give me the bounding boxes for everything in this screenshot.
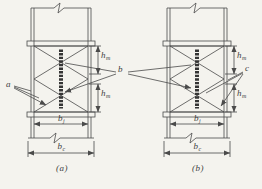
bj-label-a-sub: j xyxy=(63,118,65,124)
figure-b xyxy=(163,3,243,157)
hm-bottom-label-a-base: h xyxy=(101,88,106,98)
hm-bottom-label-a-sub: m xyxy=(106,93,110,99)
bc-label-b-base: b xyxy=(193,141,198,151)
break-symbol-top-b xyxy=(167,3,227,13)
callout-b-label: b xyxy=(118,65,123,74)
hm-bottom-label-b-sub: m xyxy=(242,93,246,99)
hm-top-label-a-base: h xyxy=(101,50,106,60)
hm-top-label-b-base: h xyxy=(237,50,242,60)
figure-canvas: a b c hm hm bj bc (a) hm hm bj bc (b) xyxy=(0,0,262,189)
bj-label-b-base: b xyxy=(194,113,199,123)
break-symbol-top-a xyxy=(31,3,91,13)
bc-label-a-base: b xyxy=(57,141,62,151)
hm-top-label-a-sub: m xyxy=(106,55,110,61)
hm-top-label-a: hm xyxy=(101,51,110,60)
bc-label-b-sub: c xyxy=(198,146,201,152)
diagram-linework xyxy=(0,0,262,189)
bj-label-a: bj xyxy=(58,114,64,123)
callout-b-leaders-right xyxy=(128,65,191,88)
bj-label-a-base: b xyxy=(58,113,63,123)
bc-label-a-sub: c xyxy=(62,146,65,152)
bc-label-a: bc xyxy=(57,142,64,151)
caption-b: (b) xyxy=(192,164,204,173)
caption-a: (a) xyxy=(56,164,68,173)
figure-a xyxy=(14,3,101,157)
bj-label-b-sub: j xyxy=(199,118,201,124)
bj-label-b: bj xyxy=(194,114,200,123)
hm-bottom-label-b: hm xyxy=(237,89,246,98)
top-plate-b xyxy=(163,41,231,46)
hm-bottom-label-a: hm xyxy=(101,89,110,98)
callout-b-leaders-left xyxy=(65,63,116,92)
bc-label-b: bc xyxy=(193,142,200,151)
hm-top-label-b: hm xyxy=(237,51,246,60)
top-plate-a xyxy=(27,41,95,46)
hm-top-label-b-sub: m xyxy=(242,55,246,61)
callout-c-label: c xyxy=(245,64,249,73)
hm-bottom-label-b-base: h xyxy=(237,88,242,98)
callout-a-leaders xyxy=(14,86,46,105)
callout-a-label: a xyxy=(6,80,11,89)
